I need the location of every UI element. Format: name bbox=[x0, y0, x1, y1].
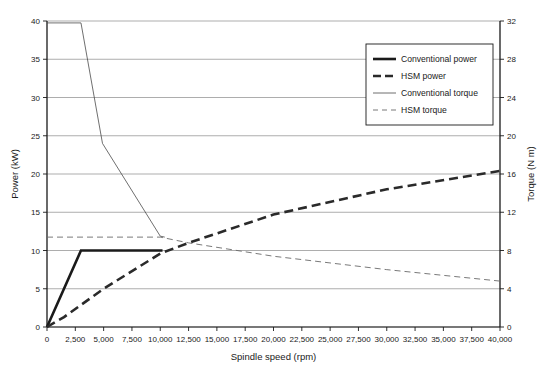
x-tick-label: 15,000 bbox=[205, 335, 230, 344]
x-tick-label: 0 bbox=[45, 335, 50, 344]
power-torque-chart: 02,5005,0007,50010,00012,50015,00017,500… bbox=[0, 0, 552, 370]
y-tick-label: 35 bbox=[31, 55, 40, 64]
x-tick-label: 30,000 bbox=[375, 335, 400, 344]
y2-tick-label: 24 bbox=[507, 94, 516, 103]
y2-tick-label: 8 bbox=[507, 247, 512, 256]
y2-tick-label: 16 bbox=[507, 170, 516, 179]
x-tick-label: 10,000 bbox=[148, 335, 173, 344]
legend-label: Conventional torque bbox=[401, 88, 478, 98]
x-tick-label: 2,500 bbox=[65, 335, 86, 344]
x-tick-label: 5,000 bbox=[94, 335, 115, 344]
y2-tick-label: 4 bbox=[507, 285, 512, 294]
x-tick-label: 37,500 bbox=[459, 335, 484, 344]
x-tick-label: 7,500 bbox=[122, 335, 143, 344]
x-tick-label: 17,500 bbox=[233, 335, 258, 344]
y2-axis-title: Torque (N m) bbox=[525, 146, 536, 201]
y2-tick-label: 20 bbox=[507, 132, 516, 141]
x-tick-label: 20,000 bbox=[261, 335, 286, 344]
y2-tick-label: 0 bbox=[507, 323, 512, 332]
y2-tick-label: 28 bbox=[507, 55, 516, 64]
y-tick-label: 0 bbox=[36, 323, 41, 332]
x-tick-label: 12,500 bbox=[176, 335, 201, 344]
y2-tick-label: 12 bbox=[507, 208, 516, 217]
y-tick-label: 40 bbox=[31, 17, 40, 26]
y2-tick-label: 32 bbox=[507, 17, 516, 26]
x-tick-label: 32,500 bbox=[403, 335, 428, 344]
y-tick-label: 30 bbox=[31, 94, 40, 103]
legend-label: Conventional power bbox=[401, 54, 477, 64]
x-tick-label: 22,500 bbox=[290, 335, 315, 344]
x-tick-label: 35,000 bbox=[431, 335, 456, 344]
chart-legend: Conventional powerHSM powerConventional … bbox=[366, 44, 493, 125]
x-tick-label: 25,000 bbox=[318, 335, 343, 344]
y-axis-title: Power (kW) bbox=[9, 149, 20, 199]
y-tick-label: 25 bbox=[31, 132, 40, 141]
x-tick-label: 40,000 bbox=[488, 335, 513, 344]
y-tick-label: 10 bbox=[31, 247, 40, 256]
x-axis-title: Spindle speed (rpm) bbox=[231, 351, 317, 362]
legend-label: HSM torque bbox=[401, 105, 447, 115]
legend-label: HSM power bbox=[401, 71, 446, 81]
y-tick-label: 20 bbox=[31, 170, 40, 179]
y-tick-label: 15 bbox=[31, 208, 40, 217]
x-tick-label: 27,500 bbox=[346, 335, 371, 344]
y-tick-label: 5 bbox=[36, 285, 41, 294]
chart-container: 02,5005,0007,50010,00012,50015,00017,500… bbox=[0, 0, 552, 370]
